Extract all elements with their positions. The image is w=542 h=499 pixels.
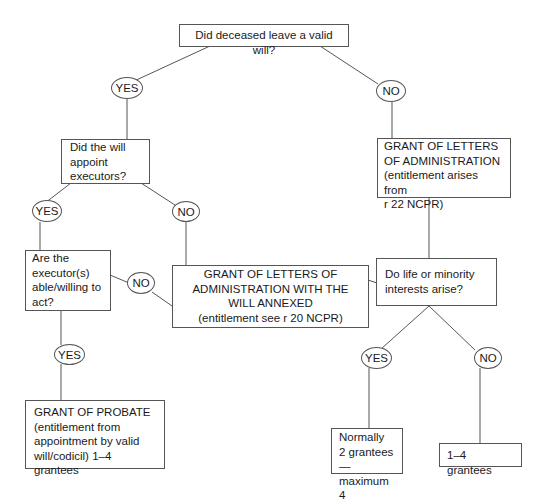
question-life-minority-interests: Do life or minority interests arise? [376,258,497,306]
label-yes-executors-able: YES [54,344,85,365]
question-executors-able: Are the executor(s) able/willing to act? [25,250,111,311]
one-to-four-grantees: 1–4 grantees [439,443,522,467]
label-yes-appoint: YES [32,200,62,222]
label-yes-life-minority: YES [361,347,392,369]
question-valid-will: Did deceased leave a valid will? [179,24,349,47]
grant-letters-of-administration: GRANT OF LETTERS OF ADMINISTRATION (enti… [377,138,511,198]
grant-letters-will-annexed: GRANT OF LETTERS OF ADMINISTRATION WITH … [172,265,369,328]
label-no-life-minority: NO [474,347,502,369]
label-no-valid-will: NO [376,80,406,102]
label-yes-valid-will: YES [111,77,143,99]
normally-two-grantees: Normally 2 grantees— maximum 4 [331,428,403,474]
label-no-appoint: NO [172,201,200,222]
question-appoint-executors: Did the will appoint executors? [61,139,150,184]
flowchart-canvas: Did deceased leave a valid will? Did the… [0,0,542,499]
label-no-executors-able: NO [127,272,155,294]
grant-of-probate: GRANT OF PROBATE (entitlement from appoi… [25,400,165,469]
